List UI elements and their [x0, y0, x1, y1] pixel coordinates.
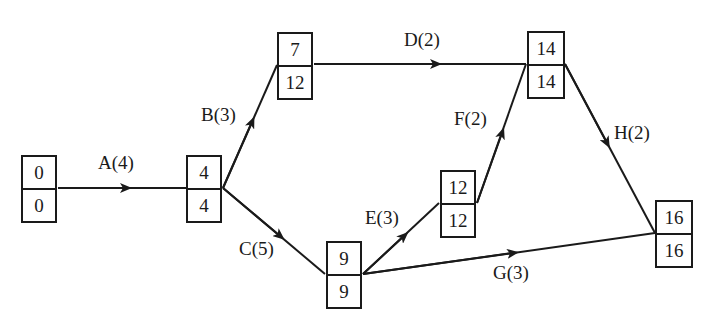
node-earliest-time: 0 — [23, 157, 55, 190]
node-2: 7 12 — [277, 32, 313, 100]
node-earliest-time: 12 — [442, 172, 474, 205]
node-earliest-time: 4 — [188, 157, 220, 190]
edge-label-a: A(4) — [98, 152, 134, 174]
node-latest-time: 4 — [188, 190, 220, 221]
node-6: 16 16 — [655, 200, 693, 268]
node-latest-time: 12 — [279, 67, 311, 98]
node-earliest-time: 9 — [328, 243, 360, 276]
edge-label-e: E(3) — [365, 207, 399, 229]
edge-label-g: G(3) — [493, 262, 529, 284]
node-1: 4 4 — [186, 155, 222, 223]
edge-label-h: H(2) — [614, 122, 650, 144]
node-latest-time: 14 — [529, 66, 563, 97]
node-latest-time: 9 — [328, 276, 360, 307]
edge-label-f: F(2) — [454, 108, 487, 130]
node-latest-time: 0 — [23, 190, 55, 221]
node-earliest-time: 14 — [529, 33, 563, 66]
node-earliest-time: 16 — [657, 202, 691, 235]
node-earliest-time: 7 — [279, 34, 311, 67]
node-0: 0 0 — [21, 155, 57, 223]
node-latest-time: 12 — [442, 205, 474, 236]
edge-label-d: D(2) — [404, 29, 440, 51]
node-5: 14 14 — [527, 31, 565, 99]
edge-label-b: B(3) — [201, 104, 236, 126]
node-latest-time: 16 — [657, 235, 691, 266]
edge-label-c: C(5) — [239, 238, 274, 260]
node-3: 9 9 — [326, 241, 362, 309]
node-4: 12 12 — [440, 170, 476, 238]
